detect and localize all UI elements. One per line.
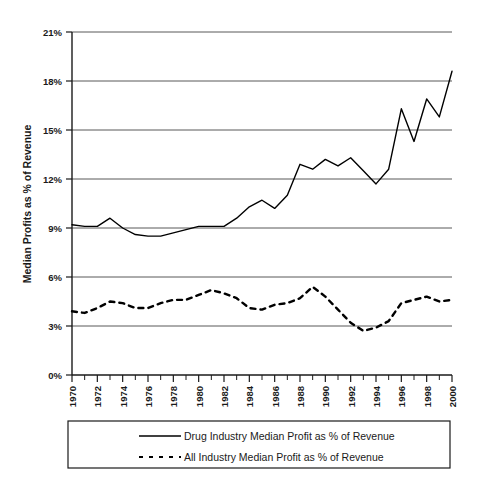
x-tick-label-1986: 1986 [270,386,281,407]
x-tick-label-1996: 1996 [396,386,407,407]
x-tick-label-1976: 1976 [143,386,154,407]
x-tick-label-1970: 1970 [67,386,78,407]
x-axis-ticks [72,375,452,382]
x-tick-label-1994: 1994 [371,385,382,407]
x-tick-label-1984: 1984 [244,385,255,407]
x-tick-label-1998: 1998 [422,386,433,407]
y-axis-title: Median Profits as % of Revenue [21,124,33,283]
legend-label-drug: Drug Industry Median Profit as % of Reve… [184,430,395,442]
x-tick-label-1992: 1992 [346,386,357,407]
chart-canvas: 21% 18% 15% 12% 9% 6% 3% 0% Median Profi… [0,0,480,480]
y-tick-label-15: 15% [43,125,63,136]
y-tick-label-9: 9% [48,223,62,234]
x-tick-label-1980: 1980 [194,386,205,407]
x-tick-label-1990: 1990 [320,386,331,407]
chart-figure: 21% 18% 15% 12% 9% 6% 3% 0% Median Profi… [0,0,480,480]
x-tick-label-1978: 1978 [168,386,179,407]
y-tick-label-18: 18% [43,76,63,87]
x-axis-tick-labels: 1970197219741976197819801982198419861988… [67,385,458,407]
legend-item-all: All Industry Median Profit as % of Reven… [139,451,384,463]
x-tick-label-1974: 1974 [118,385,129,407]
y-tick-label-3: 3% [48,321,62,332]
legend-item-drug: Drug Industry Median Profit as % of Reve… [139,430,395,442]
x-tick-label-1972: 1972 [92,386,103,407]
legend-label-all: All Industry Median Profit as % of Reven… [184,451,384,463]
x-tick-label-2000: 2000 [447,386,458,407]
x-tick-label-1982: 1982 [219,386,230,407]
y-tick-label-6: 6% [48,272,62,283]
y-axis-tick-labels: 21% 18% 15% 12% 9% 6% 3% 0% [43,27,63,381]
plot-area [72,32,452,375]
y-tick-label-0: 0% [48,370,62,381]
x-tick-label-1988: 1988 [295,386,306,407]
y-tick-label-21: 21% [43,27,63,38]
y-axis-ticks [66,32,72,375]
y-tick-label-12: 12% [43,174,63,185]
